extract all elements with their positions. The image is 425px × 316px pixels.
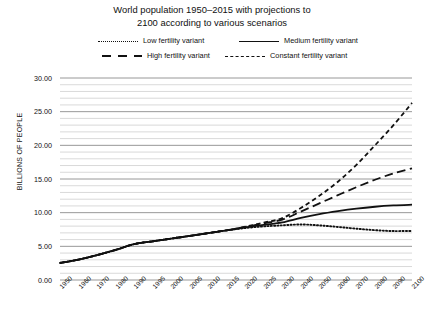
series-line-high-fertility-variant <box>60 168 412 263</box>
y-tick-label: 15.00 <box>18 175 52 184</box>
series-line-low-fertility-variant <box>60 224 412 263</box>
gridlines-major <box>60 78 412 280</box>
y-tick-label: 20.00 <box>18 141 52 150</box>
y-tick-label: 0.00 <box>18 276 52 285</box>
y-tick-label: 25.00 <box>18 107 52 116</box>
series-line-constant-fertility-variant <box>60 103 412 263</box>
y-tick-label: 10.00 <box>18 208 52 217</box>
y-axis-title: BILLIONS OF PEOPLE <box>16 97 23 207</box>
data-series-group <box>60 103 412 263</box>
series-line-medium-fertility-variant <box>60 205 412 263</box>
y-tick-label: 5.00 <box>18 242 52 251</box>
y-tick-label: 30.00 <box>18 74 52 83</box>
